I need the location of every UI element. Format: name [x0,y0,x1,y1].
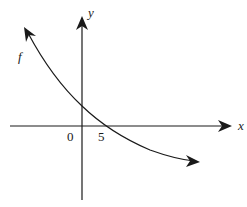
x-axis-label: x [238,119,244,132]
curve-start-arrow-icon [24,27,36,42]
function-graph: y x 0 5 f [0,0,247,207]
y-axis [76,16,88,200]
y-axis-label: y [88,6,94,19]
origin-label: 0 [67,130,74,143]
curve-label-f: f [18,50,22,63]
x-axis [10,120,232,132]
curve-end-arrow-icon [186,155,200,167]
x-tick-label-5: 5 [98,130,105,143]
graph-canvas [0,0,247,207]
curve-f [24,27,200,167]
